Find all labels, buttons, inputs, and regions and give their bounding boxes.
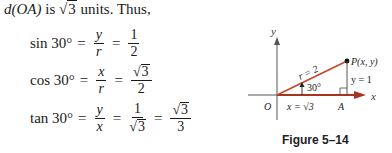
sqrt-3: √3 [59, 0, 77, 18]
x-side-label: x = √3 [286, 101, 314, 112]
angle-label: 30° [307, 82, 321, 93]
origin-label: O [264, 101, 271, 112]
x-axis-label: x [370, 90, 376, 102]
y-axis-label: y [270, 25, 276, 37]
distance-oa: d(OA) [4, 1, 42, 17]
tan-equation: tan 30° = yx = 1√3 = √33 [30, 102, 194, 134]
cos-equation: cos 30° = xr = √32 [30, 64, 155, 96]
intro-text: d(OA) is √3 units. Thus, [4, 0, 151, 18]
a-label: A [337, 101, 345, 112]
y-axis-arrow-icon [274, 37, 280, 45]
sin-equation: sin 30° = yr = 12 [30, 28, 142, 59]
figure-caption: Figure 5–14 [282, 133, 349, 147]
x-axis-arrow-icon [354, 91, 366, 99]
point-label: P(x, y) [350, 56, 378, 68]
y-side-label: y = 1 [351, 74, 372, 85]
